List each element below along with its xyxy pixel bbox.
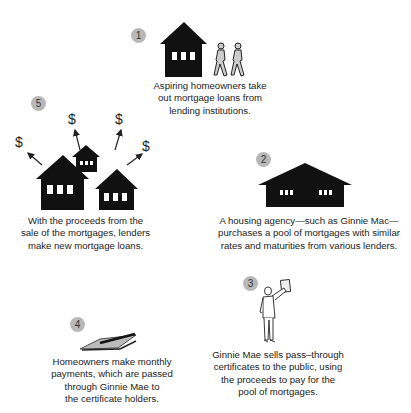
step-caption: Ginnie Mae sells pass–through certificat… <box>211 349 345 398</box>
person-holding-certificate-icon <box>258 280 294 344</box>
step-caption: A housing agency—such as Ginnie Mac— pur… <box>214 215 404 252</box>
step-badge: 3 <box>243 276 258 291</box>
step-badge: 4 <box>70 317 85 332</box>
step-caption: Homeowners make monthly payments, which … <box>42 356 182 405</box>
houses-icon <box>34 145 140 210</box>
housing-agency-building-icon <box>258 163 352 207</box>
step-caption: With the proceeds from the sale of the m… <box>18 215 153 252</box>
payment-documents-icon <box>80 331 136 351</box>
